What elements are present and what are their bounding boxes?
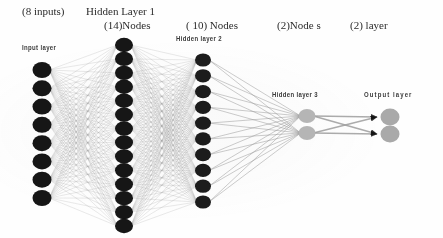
network-node — [195, 117, 211, 130]
network-node — [195, 85, 211, 98]
caption-input-count: (8 inputs) — [22, 5, 64, 17]
network-node — [33, 99, 52, 115]
network-node — [33, 153, 52, 169]
edge — [49, 143, 117, 212]
edge — [131, 45, 197, 60]
caption-hidden-layer-1: Hidden Layer 1 — [86, 5, 155, 17]
network-node — [115, 80, 133, 94]
network-node — [195, 180, 211, 193]
edge — [49, 180, 117, 198]
edge — [209, 116, 301, 202]
edge — [49, 125, 117, 157]
edge — [209, 60, 301, 116]
label-hidden-layer-2: Hidden layer 2 — [176, 36, 222, 42]
network-node — [115, 191, 133, 205]
edge — [131, 73, 197, 92]
network-node — [115, 52, 133, 66]
network-node — [299, 126, 316, 140]
network-node — [115, 149, 133, 163]
edge — [131, 59, 197, 60]
edge — [209, 107, 301, 116]
network-node — [115, 205, 133, 219]
edge — [49, 45, 117, 88]
network-node — [33, 80, 52, 96]
edge — [49, 142, 117, 198]
edge — [49, 45, 117, 107]
edge — [313, 133, 377, 134]
network-node — [33, 117, 52, 133]
network-node — [195, 148, 211, 161]
network-node — [115, 177, 133, 191]
network-node — [115, 163, 133, 177]
network-node — [195, 195, 211, 208]
network-node — [381, 126, 400, 143]
network-node — [33, 62, 52, 78]
network-node — [33, 135, 52, 151]
network-node — [195, 53, 211, 66]
network-node — [33, 190, 52, 206]
network-node — [115, 107, 133, 121]
network-node — [115, 93, 133, 107]
edge — [209, 133, 301, 186]
network-node — [115, 219, 133, 233]
edges-group — [49, 45, 377, 226]
network-node — [33, 172, 52, 188]
label-input-layer: Input layer — [22, 45, 56, 51]
network-node — [195, 164, 211, 177]
network-node — [299, 109, 316, 123]
label-hidden-layer-3: Hidden layer 3 — [272, 92, 318, 98]
edge — [49, 143, 117, 198]
caption-hidden-layer-1-nodes: (14)Nodes — [104, 19, 150, 31]
network-node — [115, 38, 133, 52]
network-node — [115, 66, 133, 80]
edge — [49, 59, 117, 88]
network-node — [381, 109, 400, 126]
network-node — [115, 135, 133, 149]
caption-hidden-layer-2-nodes: ( 10) Nodes — [186, 19, 238, 31]
network-node — [195, 69, 211, 82]
caption-hidden-layer-3-nodes: (2)Node s — [277, 19, 321, 31]
neural-network-diagram: (8 inputs) Hidden Layer 1 (14)Nodes ( 10… — [0, 0, 443, 238]
network-node — [195, 132, 211, 145]
edge — [131, 170, 197, 226]
label-output-layer: Output layer — [364, 92, 413, 98]
caption-output-layer: (2) layer — [350, 19, 388, 31]
network-node — [115, 121, 133, 135]
network-node — [195, 101, 211, 114]
edge — [313, 116, 377, 117]
